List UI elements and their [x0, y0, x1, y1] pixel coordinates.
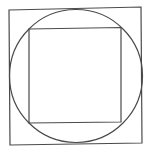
diagram-canvas — [0, 0, 148, 155]
inner-square — [29, 28, 121, 124]
geometry-figure — [0, 0, 148, 155]
